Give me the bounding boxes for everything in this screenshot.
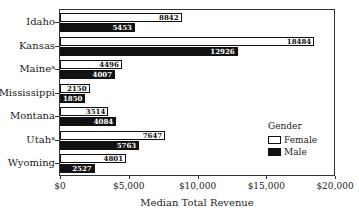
male-bar: 12926 xyxy=(60,47,238,56)
category-label: Utahᵃ xyxy=(26,135,55,145)
bar-value-label: 8842 xyxy=(159,13,178,22)
x-tick-label: $15,000 xyxy=(248,181,285,191)
category-label: Mississippi xyxy=(0,88,55,98)
female-bar: 4801 xyxy=(60,154,126,163)
male-bar: 1850 xyxy=(60,94,85,103)
x-tick-label: $10,000 xyxy=(179,181,216,191)
female-bar: 7647 xyxy=(60,131,165,140)
legend-item-male: Male xyxy=(268,146,317,158)
y-tick xyxy=(55,46,59,47)
bar-value-label: 2150 xyxy=(67,84,86,93)
category-label: Kansas xyxy=(19,41,55,51)
female-bar: 4496 xyxy=(60,60,122,69)
male-bar: 4084 xyxy=(60,117,116,126)
category-label: Montana xyxy=(10,111,55,121)
female-bar: 2150 xyxy=(60,84,90,93)
x-tick-label: $0 xyxy=(54,181,65,191)
male-bar: 2527 xyxy=(60,164,95,173)
x-tick xyxy=(198,176,199,179)
x-tick xyxy=(129,176,130,179)
x-tick xyxy=(266,176,267,179)
x-axis-label: Median Total Revenue xyxy=(140,197,253,208)
y-tick xyxy=(55,116,59,117)
male-bar: 5453 xyxy=(60,23,135,32)
x-tick xyxy=(60,176,61,179)
bar-value-label: 4007 xyxy=(93,70,112,79)
y-tick xyxy=(55,69,59,70)
x-tick-label: $20,000 xyxy=(316,181,353,191)
y-tick xyxy=(55,93,59,94)
male-bar: 5763 xyxy=(60,141,139,150)
male-bar: 4007 xyxy=(60,70,115,79)
category-label: Wyoming xyxy=(8,158,55,168)
legend-title: Gender xyxy=(268,121,317,131)
bar-value-label: 18484 xyxy=(287,37,311,46)
legend-label-female: Female xyxy=(284,135,317,145)
bar-value-label: 4496 xyxy=(99,60,118,69)
male-swatch xyxy=(268,148,281,156)
y-tick xyxy=(55,163,59,164)
bar-value-label: 3514 xyxy=(86,107,105,116)
bar-value-label: 7647 xyxy=(143,131,162,140)
female-bar: 8842 xyxy=(60,13,182,22)
bar-value-label: 4084 xyxy=(94,117,113,126)
legend-label-male: Male xyxy=(284,147,307,157)
bar-value-label: 1850 xyxy=(63,94,82,103)
y-tick xyxy=(55,140,59,141)
bar-value-label: 5453 xyxy=(112,23,131,32)
x-tick-label: $5,000 xyxy=(113,181,145,191)
category-label: Maineᵃ xyxy=(19,64,55,74)
legend: Gender Female Male xyxy=(268,121,317,158)
female-bar: 18484 xyxy=(60,37,314,46)
bar-value-label: 5763 xyxy=(117,141,136,150)
bar-value-label: 12926 xyxy=(210,47,234,56)
bar-value-label: 4801 xyxy=(104,154,123,163)
bar-value-label: 2527 xyxy=(72,164,91,173)
female-swatch xyxy=(268,136,281,144)
x-tick xyxy=(335,176,336,179)
legend-item-female: Female xyxy=(268,134,317,146)
revenue-bar-chart: Idaho88425453Kansas1848412926Maineᵃ44964… xyxy=(0,0,359,210)
y-tick xyxy=(55,22,59,23)
category-label: Idaho xyxy=(26,17,55,27)
female-bar: 3514 xyxy=(60,107,108,116)
